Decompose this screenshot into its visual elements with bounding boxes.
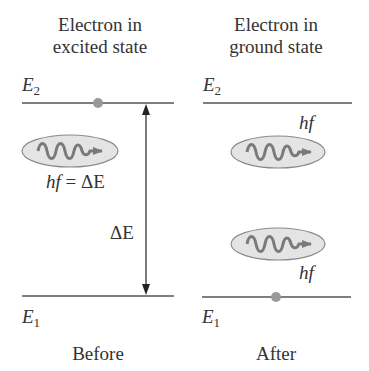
after-photon-bottom-icon (231, 228, 325, 260)
arrow-down-head (142, 284, 150, 295)
after-photon-top-label: hf (299, 112, 314, 134)
after-photon-bottom-label: hf (299, 262, 314, 284)
after-photon-top-icon (231, 136, 325, 168)
arrow-up-head (142, 104, 150, 115)
before-photon-icon (22, 135, 118, 167)
electron-excited (93, 98, 103, 108)
before-photon-label: hf = ΔE (46, 171, 105, 193)
electron-ground (271, 292, 281, 302)
delta-e-label: ΔE (110, 222, 134, 244)
before-caption: Before (48, 343, 148, 365)
after-caption: After (226, 343, 326, 365)
